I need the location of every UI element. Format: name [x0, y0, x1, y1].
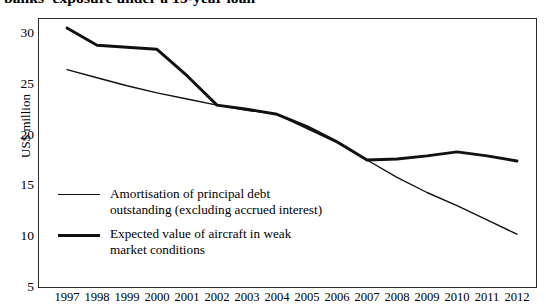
legend-label: Amortisation of principal debt outstandi…	[110, 186, 358, 217]
legend-line-swatch	[58, 194, 100, 195]
series-line-aircraft-value	[67, 28, 517, 161]
legend-entry: Amortisation of principal debt outstandi…	[58, 186, 358, 217]
legend-line-swatch	[58, 234, 100, 237]
chart-legend: Amortisation of principal debt outstandi…	[58, 186, 358, 266]
legend-label: Expected value of aircraft in weak marke…	[110, 226, 358, 257]
legend-entry: Expected value of aircraft in weak marke…	[58, 226, 358, 257]
chart-figure: banks' exposure under a 15-year loan US$…	[0, 0, 546, 308]
